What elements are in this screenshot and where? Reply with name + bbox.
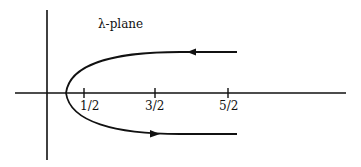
tick-label-1-2: 1/2 [80, 100, 99, 112]
arrow-right-icon [150, 130, 160, 138]
lambda-plane-diagram [0, 0, 361, 167]
tick-label-5-2: 5/2 [219, 100, 238, 112]
plane-title: λ-plane [98, 18, 143, 30]
tick-label-3-2: 3/2 [145, 100, 164, 112]
arrow-left-icon [187, 49, 196, 56]
